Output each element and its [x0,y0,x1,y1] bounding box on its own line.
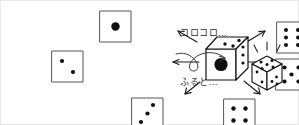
dice-illustration: コロコロ… ふると… [0,0,299,125]
pip [256,71,259,74]
pip [260,61,263,64]
rolling-sound-label: コロコロ… [180,26,228,39]
pip [276,83,279,86]
pip [271,59,274,62]
pip [261,81,264,84]
impact-lines [254,42,280,52]
looping-roll-arrow [176,53,225,71]
pip [275,76,278,79]
pip [261,67,264,70]
pip [271,80,274,83]
rolling-sequence-diagram [1,1,299,125]
shake-caption-label: ふると… [180,75,218,88]
pip [272,66,275,69]
pip [266,63,269,66]
result-3d-die [252,56,282,90]
